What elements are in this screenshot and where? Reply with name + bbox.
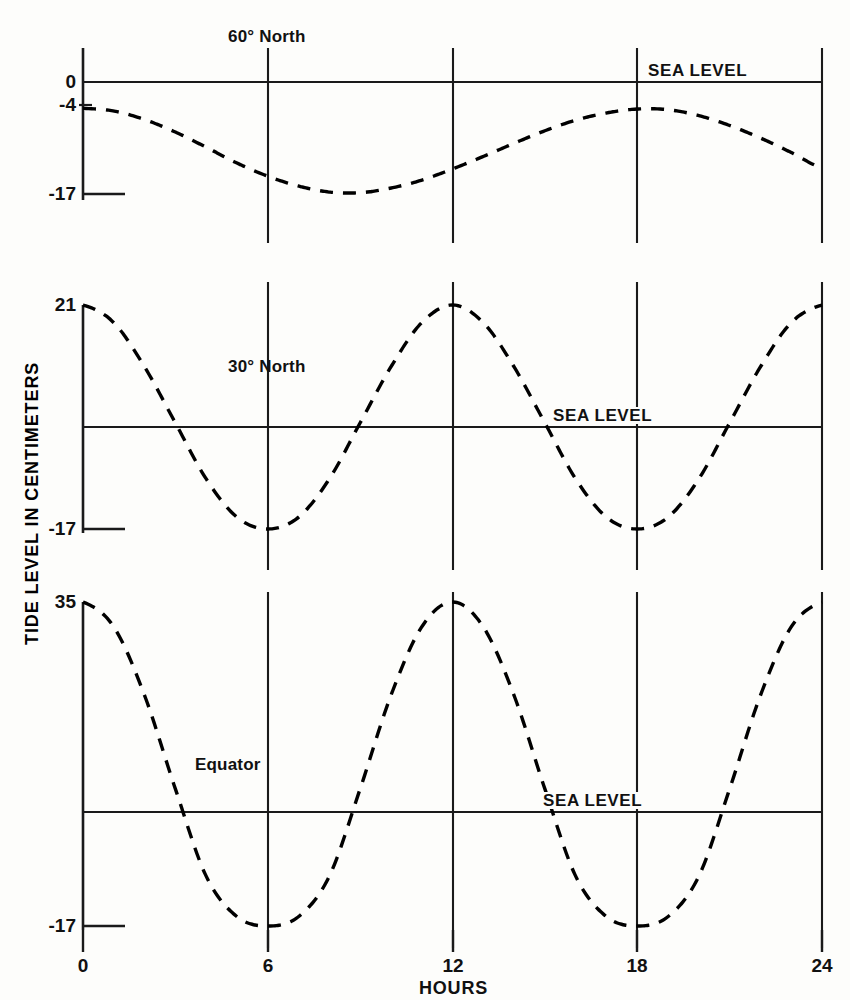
xtick-label-0: 0 xyxy=(63,956,103,975)
y-axis-title: TIDE LEVEL IN CENTIMETERS xyxy=(22,362,43,645)
xtick-label-6: 6 xyxy=(248,956,288,975)
panel-title-60-north: 60° North xyxy=(228,28,306,45)
panel-title-30-north: 30° North xyxy=(228,358,306,375)
ytick-label-minus17-panel1: -17 xyxy=(18,184,76,203)
ytick-label-minus4-panel1: -4 xyxy=(30,95,76,114)
x-axis-title: HOURS xyxy=(419,979,488,997)
x-axis-tick-marks xyxy=(83,930,822,952)
sea-level-label-panel2: SEA LEVEL xyxy=(550,407,655,424)
xtick-label-12: 12 xyxy=(433,956,473,975)
ytick-label-0-panel1: 0 xyxy=(38,72,76,91)
tide-level-chart-figure: 60° North 30° North Equator SEA LEVEL SE… xyxy=(0,0,850,1000)
panel-title-equator: Equator xyxy=(195,756,261,773)
ytick-label-21-panel2: 21 xyxy=(30,295,76,314)
sea-level-label-panel1: SEA LEVEL xyxy=(645,62,750,79)
xtick-label-24: 24 xyxy=(802,956,842,975)
xtick-label-18: 18 xyxy=(617,956,657,975)
chart-canvas xyxy=(0,0,850,1000)
ytick-label-minus17-panel3: -17 xyxy=(18,916,76,935)
sea-level-label-panel3: SEA LEVEL xyxy=(540,792,645,809)
